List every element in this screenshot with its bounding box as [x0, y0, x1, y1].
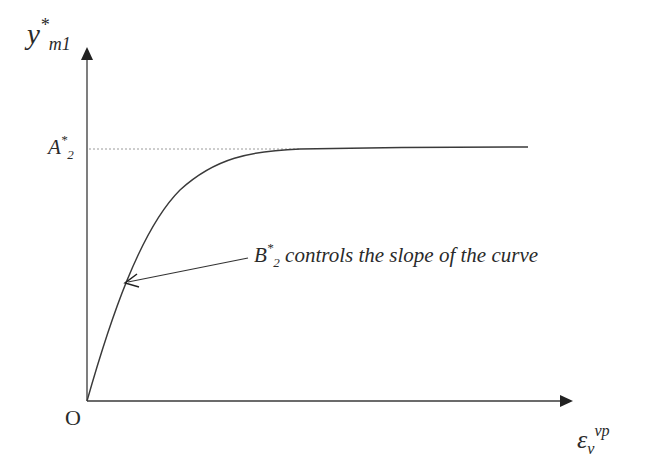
- y-axis-arrow-icon: [81, 47, 93, 60]
- annotation-text: B*2 controls the slope of the curve: [254, 243, 538, 268]
- annotation-sub: 2: [273, 255, 280, 270]
- x-label-sup: vp: [594, 422, 609, 439]
- x-label-main: ε: [577, 425, 587, 454]
- asymptote-label-main: A: [48, 135, 61, 159]
- asymptote-label: A*2: [48, 135, 74, 160]
- annotation-arrow: [128, 258, 248, 282]
- x-axis-arrow-icon: [560, 395, 573, 407]
- y-axis-label: y*m1: [27, 18, 71, 51]
- annotation-rest: controls the slope of the curve: [280, 243, 538, 267]
- y-label-sub: m1: [49, 34, 71, 54]
- annotation-main: B: [254, 243, 267, 267]
- x-axis-label: εvvp: [577, 425, 610, 455]
- y-label-main: y: [27, 18, 40, 50]
- asymptote-label-sup: *: [61, 132, 68, 147]
- annotation-sup: *: [267, 240, 274, 255]
- x-label-sub: v: [587, 440, 594, 457]
- y-label-sup: *: [40, 15, 49, 35]
- origin-label: O: [65, 405, 81, 431]
- diagram-canvas: [0, 0, 645, 475]
- saturation-curve: [87, 147, 528, 401]
- asymptote-label-sub: 2: [67, 147, 74, 162]
